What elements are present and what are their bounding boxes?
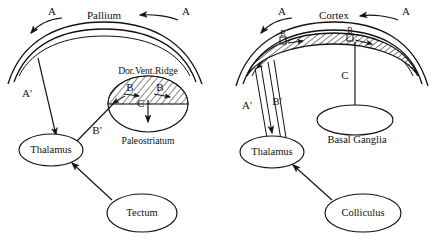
dorsal-ventricular-ridge-hatched [108,76,188,104]
descending-label-c: C [137,97,144,109]
cortex-hatched-band [247,33,418,76]
afferent-arrow-right-right-panel [360,15,398,20]
colliculus-to-thalamus-path [293,165,332,200]
ridge-to-thalamus-label: B' [92,124,101,136]
colliculus-label: Colliculus [341,207,384,218]
afferent-arrow-right [140,15,178,20]
ridge-arrow-right-label: B [156,81,163,93]
paleostriatum-label: Paleostriatum [122,135,175,146]
thalamus-label-right: Thalamus [251,146,292,157]
cortex-to-thalamus-tract [255,66,272,138]
cortex-to-thalamus-label: A' [242,99,252,111]
cortex-band-to-thalamus-label: B' [272,95,281,107]
afferent-label-left: A [48,5,56,17]
afferent-arrow-left [31,18,62,33]
pallium-title: Pallium [87,9,122,21]
afferent-arrow-left-right-panel [261,18,292,33]
pallium-to-thalamus-label: A' [22,87,32,99]
basal-ganglia-label: Basal Ganglia [327,134,387,145]
ridge-arrow-left-label: B [126,81,133,93]
left-panel: Pallium A A Dor.Vent.Ridge Paleostriatum… [8,5,202,232]
comparative-neuroanatomy-diagram: Pallium A A Dor.Vent.Ridge Paleostriatum… [0,0,436,252]
cortex-marker-left-label: B [280,29,285,38]
pallium-to-thalamus-path [38,58,56,135]
basal-ganglia-ellipse [317,105,393,135]
cortex-title: Cortex [319,9,349,21]
cortex-marker-right-label: B [347,26,352,35]
a-prime-line-outer [255,68,267,138]
dvr-label: Dor.Vent.Ridge [118,65,178,76]
right-panel: Cortex A A B B C [236,5,428,232]
afferent-label-right-right-panel: A [402,5,410,17]
diagram-root: Pallium A A Dor.Vent.Ridge Paleostriatum… [0,0,436,252]
tectum-to-thalamus-path [72,163,112,200]
afferent-label-right: A [182,5,190,17]
thalamus-label-left: Thalamus [30,144,71,155]
descending-label-c-right: C [341,69,348,81]
afferent-label-left-right-panel: A [278,5,286,17]
tectum-label: Tectum [126,207,157,218]
